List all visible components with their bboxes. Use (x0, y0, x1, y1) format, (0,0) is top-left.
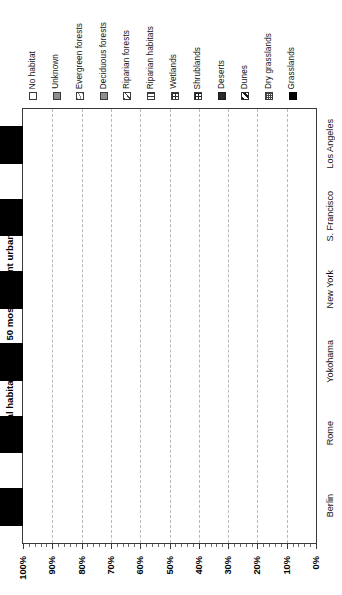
legend-swatch-icon (29, 92, 37, 100)
chart-band (23, 109, 316, 181)
axis-tick-label-text: 70% (106, 556, 116, 575)
chart-band (23, 398, 316, 470)
axis-tick-label: 80% (69, 556, 95, 575)
category-label-text: New York (325, 270, 335, 308)
bar-segment[interactable] (0, 488, 23, 526)
legend-item[interactable]: Evergreen forests (69, 0, 91, 104)
axis-tick-label: 30% (215, 556, 241, 575)
axis-tick (82, 544, 83, 549)
y-axis-title-text: Natural habitats of the 50 most frequent… (4, 203, 15, 444)
legend-item[interactable]: Deserts (211, 0, 233, 104)
legend-swatch-icon (123, 92, 131, 100)
axis-tick-label-text: 90% (47, 556, 57, 575)
axis-minor-tick (281, 544, 282, 547)
axis-minor-tick (117, 544, 118, 547)
axis-minor-tick (58, 544, 59, 547)
category-label-text: Yokohama (325, 340, 335, 383)
bar-segment[interactable] (0, 126, 23, 164)
legend-item[interactable]: Dry grasslands (258, 0, 280, 104)
legend-item-label: Deserts (218, 60, 226, 89)
axis-tick (316, 544, 317, 549)
axis-minor-tick (193, 544, 194, 547)
legend-item[interactable]: Wetlands (164, 0, 186, 104)
axis-minor-tick (187, 544, 188, 547)
legend-item[interactable]: Riparian habitats (140, 0, 162, 104)
category-label-text: Berlin (325, 494, 335, 517)
axis-tick (140, 544, 141, 549)
axis-tick-label-text: 100% (18, 556, 28, 580)
legend-item[interactable]: Grasslands (282, 0, 304, 104)
plot-wrapper: Natural habitats of the 50 most frequent… (0, 104, 342, 595)
plot-area (22, 108, 317, 544)
axis-tick-label: 100% (10, 556, 36, 580)
axis-minor-tick (158, 544, 159, 547)
chart-band (23, 326, 316, 398)
legend-item-label: Unknown (52, 54, 60, 89)
legend-item[interactable]: Unknown (46, 0, 68, 104)
category-label-text: Rome (325, 421, 335, 445)
axis-tick-label: 70% (98, 556, 124, 575)
axis-tick-label: 60% (127, 556, 153, 575)
x-axis (22, 544, 317, 554)
axis-tick (23, 544, 24, 549)
axis-tick-label: 10% (274, 556, 300, 575)
axis-minor-tick (164, 544, 165, 547)
chart-band (23, 471, 316, 543)
legend-item[interactable]: Dunes (234, 0, 256, 104)
axis-minor-tick (263, 544, 264, 547)
legend-item-label: Dry grasslands (265, 33, 273, 89)
axis-tick (287, 544, 288, 549)
axis-minor-tick (211, 544, 212, 547)
legend-swatch-icon (147, 92, 155, 100)
legend-swatch-icon (76, 92, 84, 100)
legend-item-label: Evergreen forests (76, 23, 84, 89)
axis-minor-tick (269, 544, 270, 547)
category-label: Berlin (320, 470, 340, 542)
legend-item[interactable]: Shrublands (187, 0, 209, 104)
axis-minor-tick (64, 544, 65, 547)
chart-band (23, 181, 316, 253)
legend-item-label: Shrublands (194, 47, 202, 89)
axis-tick-label-text: 50% (165, 556, 175, 575)
axis-minor-tick (87, 544, 88, 547)
axis-minor-tick (128, 544, 129, 547)
legend-item[interactable]: No habitat (22, 0, 44, 104)
legend-swatch-icon (53, 92, 61, 100)
bar-segment[interactable] (0, 271, 23, 309)
bar-segment[interactable] (0, 343, 23, 381)
axis-minor-tick (234, 544, 235, 547)
legend-item-label: Grasslands (288, 47, 296, 89)
category-label: Yokohama (320, 325, 340, 397)
axis-minor-tick (35, 544, 36, 547)
category-label-text: S. Francisco (325, 191, 335, 242)
bar-segment[interactable] (0, 199, 23, 237)
legend-item-label: No habitat (29, 51, 37, 89)
axis-tick-label: 0% (303, 556, 329, 569)
category-label: Rome (320, 397, 340, 469)
axis-minor-tick (310, 544, 311, 547)
axis-tick-label-text: 30% (223, 556, 233, 575)
axis-minor-tick (222, 544, 223, 547)
bar-segment[interactable] (0, 416, 23, 454)
axis-tick-label-text: 40% (194, 556, 204, 575)
axis-minor-tick (175, 544, 176, 547)
legend-item-label: Riparian habitats (147, 26, 155, 89)
legend-swatch-icon (218, 92, 226, 100)
legend-swatch-icon (171, 92, 179, 100)
axis-minor-tick (293, 544, 294, 547)
legend-item[interactable]: Riparian forests (116, 0, 138, 104)
axis-minor-tick (76, 544, 77, 547)
axis-tick (228, 544, 229, 549)
axis-tick-label-text: 0% (311, 556, 321, 569)
axis-minor-tick (134, 544, 135, 547)
legend-swatch-icon (241, 92, 249, 100)
category-label-text: Los Angeles (325, 119, 335, 169)
category-label: New York (320, 253, 340, 325)
axis-minor-tick (29, 544, 30, 547)
legend-item-label: Dunes (241, 65, 249, 89)
legend-item[interactable]: Deciduous forests (93, 0, 115, 104)
axis-minor-tick (252, 544, 253, 547)
axis-minor-tick (93, 544, 94, 547)
axis-tick-label: 40% (186, 556, 212, 575)
chart-legend: No habitatUnknownEvergreen forestsDecidu… (0, 0, 342, 104)
